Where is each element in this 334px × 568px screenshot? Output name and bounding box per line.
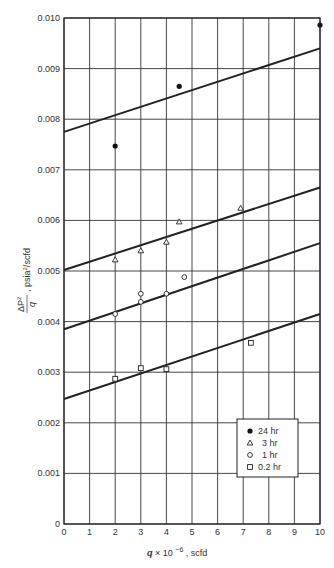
legend-marker-filled-circle-icon — [247, 428, 252, 433]
y-tick-label: 0.002 — [37, 418, 60, 428]
data-point-square — [248, 340, 253, 345]
data-point-filled-circle — [177, 84, 182, 89]
x-tick-label: 9 — [292, 527, 297, 537]
data-point-open-circle — [138, 299, 143, 304]
legend-label: 0.2 hr — [258, 462, 281, 472]
x-tick-label: 0 — [61, 527, 66, 537]
y-tick-label: 0 — [55, 519, 60, 529]
legend-marker-square-icon — [248, 465, 253, 470]
data-point-square — [164, 367, 169, 372]
x-tick-label: 2 — [113, 527, 118, 537]
data-point-square — [138, 366, 143, 371]
y-tick-label: 0.001 — [37, 468, 60, 478]
y-tick-label: 0.010 — [37, 13, 60, 23]
y-tick-label: 0.004 — [37, 317, 60, 327]
svg-text:q × 10 −6 ,: q × 10 −6 , scfd — [147, 544, 207, 558]
data-point-triangle — [112, 257, 118, 262]
data-point-open-circle — [113, 312, 118, 317]
x-tick-label: 4 — [164, 527, 169, 537]
data-point-triangle — [176, 219, 182, 224]
x-tick-label: 7 — [241, 527, 246, 537]
chart: 012345678910 00.0010.0020.0030.0040.0050… — [0, 0, 334, 568]
legend-marker-open-circle-icon — [248, 453, 253, 458]
data-point-triangle — [164, 239, 170, 244]
data-point-filled-circle — [113, 143, 118, 148]
y-tick-label: 0.008 — [37, 114, 60, 124]
x-axis-label: q × 10 −6 , scfd — [147, 544, 207, 558]
y-axis-label: ΔP2 q , psia2/scfd — [16, 248, 37, 313]
legend-label: 1 hr — [262, 450, 278, 460]
data-point-open-circle — [138, 291, 143, 296]
y-tick-label: 0.009 — [37, 64, 60, 74]
data-point-open-circle — [182, 275, 187, 280]
data-point-triangle — [138, 248, 144, 253]
legend: 24 hr3 hr1 hr0.2 hr — [237, 419, 298, 477]
x-tick-label: 10 — [315, 527, 325, 537]
y-tick-label: 0.006 — [37, 215, 60, 225]
svg-text:ΔP2: ΔP2 — [16, 296, 26, 312]
y-tick-label: 0.007 — [37, 165, 60, 175]
legend-label: 24 hr — [258, 426, 279, 436]
svg-text:q: q — [27, 302, 37, 307]
data-point-triangle — [238, 205, 244, 210]
x-tick-label: 8 — [266, 527, 271, 537]
x-tick-label: 6 — [215, 527, 220, 537]
y-axis-ticks: 00.0010.0020.0030.0040.0050.0060.0070.00… — [37, 13, 60, 529]
data-point-square — [113, 376, 118, 381]
x-tick-label: 1 — [87, 527, 92, 537]
legend-label: 3 hr — [262, 438, 278, 448]
x-tick-label: 5 — [189, 527, 194, 537]
y-tick-label: 0.003 — [37, 367, 60, 377]
x-tick-label: 3 — [138, 527, 143, 537]
y-tick-label: 0.005 — [37, 266, 60, 276]
data-point-open-circle — [164, 291, 169, 296]
x-axis-ticks: 012345678910 — [61, 527, 325, 537]
svg-text:, psia2/scfd: , psia2/scfd — [22, 248, 32, 292]
